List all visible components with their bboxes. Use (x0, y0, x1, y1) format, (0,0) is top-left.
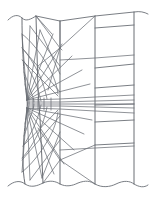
mesh-diagram (0, 0, 155, 200)
diagram-canvas (0, 0, 155, 200)
